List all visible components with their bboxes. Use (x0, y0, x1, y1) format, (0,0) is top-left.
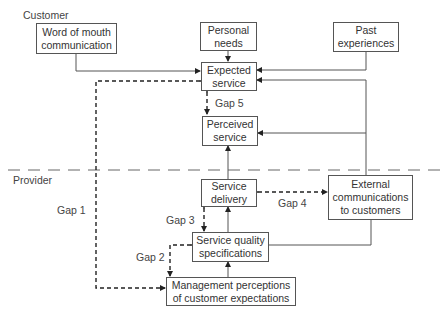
service-delivery-node: Service delivery (201, 179, 257, 207)
edge-specs-to-external (268, 219, 371, 245)
external-communications-node: External communications to customers (328, 175, 413, 220)
service-quality-specifications-node: Service quality specifications (192, 232, 269, 262)
personal-needs-node: Personal needs (200, 22, 257, 51)
expected-service-node: Expected service (201, 62, 257, 91)
edge-external-to-expected (257, 80, 366, 175)
edge-past-experiences-to-expected (257, 51, 366, 70)
edge-word-of-mouth-to-expected (76, 53, 200, 71)
customer-region-label: Customer (23, 9, 69, 21)
management-perceptions-node: Management perceptions of customer expec… (166, 277, 296, 306)
gap3-label: Gap 3 (166, 214, 195, 226)
word-of-mouth-node: Word of mouth communication (36, 23, 117, 54)
perceived-service-node: Perceived service (202, 116, 258, 146)
past-experiences-node: Past experiences (333, 22, 399, 52)
gap4-label: Gap 4 (278, 197, 307, 209)
gap2-connector (170, 245, 191, 276)
provider-region-label: Provider (13, 174, 52, 186)
gap1-label: Gap 1 (57, 204, 86, 216)
gap2-label: Gap 2 (136, 251, 165, 263)
gap5-label: Gap 5 (215, 97, 244, 109)
